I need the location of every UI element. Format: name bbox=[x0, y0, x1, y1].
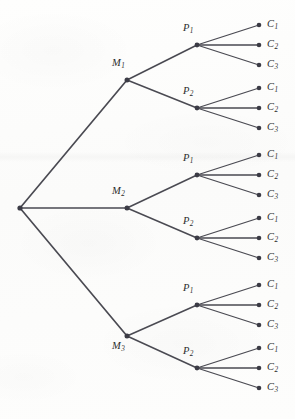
leaf-m2-p2-c1-label: C1 bbox=[267, 211, 278, 222]
leaf-m1-p2-c1-label: C1 bbox=[267, 81, 278, 92]
leaf-m2-p1-c1 bbox=[257, 153, 262, 158]
leaf-m1-p1-c3 bbox=[257, 63, 262, 68]
leaf-m1-p1-c1 bbox=[257, 23, 262, 28]
node-m2-label: M2 bbox=[112, 185, 125, 196]
node-m2-p2 bbox=[195, 236, 200, 241]
leaf-m2-p2-c1 bbox=[257, 216, 262, 221]
edge-node-m2-p2-to-leaf-m2-p2-c1 bbox=[197, 218, 259, 238]
node-m2-p1 bbox=[195, 173, 200, 178]
node-m3-p1-label: P1 bbox=[183, 282, 193, 293]
edge-node-m1-p1-to-leaf-m1-p1-c1 bbox=[197, 25, 259, 45]
leaf-m3-p2-c1-label: C1 bbox=[267, 341, 278, 352]
leaf-m1-p1-c2-label: C2 bbox=[267, 38, 278, 49]
leaf-m1-p2-c2 bbox=[257, 106, 262, 111]
edge-node-m2-p1-to-leaf-m2-p1-c3 bbox=[197, 175, 259, 195]
edge-node-m2-to-node-m2-p1 bbox=[127, 175, 197, 208]
edge-node-m3-p1-to-leaf-m3-p1-c1 bbox=[197, 285, 259, 305]
edge-node-m1-to-node-m1-p1 bbox=[127, 45, 197, 80]
node-m3-p2 bbox=[195, 366, 200, 371]
leaf-m3-p2-c3 bbox=[257, 386, 262, 391]
node-m2-p2-label: P2 bbox=[183, 215, 193, 226]
node-m1-label: M1 bbox=[112, 57, 125, 68]
edge-node-m3-p2-to-leaf-m3-p2-c1 bbox=[197, 348, 259, 368]
leaf-m1-p1-c2 bbox=[257, 43, 262, 48]
node-m3-p1 bbox=[195, 303, 200, 308]
leaf-m1-p2-c3-label: C3 bbox=[267, 121, 278, 132]
leaf-m2-p1-c3-label: C3 bbox=[267, 188, 278, 199]
root-node bbox=[17, 205, 22, 210]
node-m2 bbox=[125, 206, 130, 211]
edge-group bbox=[20, 25, 259, 388]
leaf-m3-p1-c1-label: C1 bbox=[267, 278, 278, 289]
node-m1-p2 bbox=[195, 106, 200, 111]
leaf-m3-p1-c2 bbox=[257, 303, 262, 308]
leaf-m2-p1-c2 bbox=[257, 173, 262, 178]
edge-node-m2-p1-to-leaf-m2-p1-c1 bbox=[197, 155, 259, 175]
edge-node-m3-p1-to-leaf-m3-p1-c3 bbox=[197, 305, 259, 325]
leaf-m1-p2-c2-label: C2 bbox=[267, 101, 278, 112]
edge-node-m2-p2-to-leaf-m2-p2-c3 bbox=[197, 238, 259, 258]
edge-node-m1-p2-to-leaf-m1-p2-c3 bbox=[197, 108, 259, 128]
edge-node-m1-p1-to-leaf-m1-p1-c3 bbox=[197, 45, 259, 65]
leaf-m3-p1-c1 bbox=[257, 283, 262, 288]
tree-diagram-page: M1M2M3P1P2P1P2P1P2C1C2C3C1C2C3C1C2C3C1C2… bbox=[0, 0, 295, 419]
edge-node-m3-to-node-m3-p1 bbox=[127, 305, 197, 336]
leaf-m2-p2-c3-label: C3 bbox=[267, 251, 278, 262]
edge-root-to-node-m1 bbox=[20, 80, 127, 208]
node-m1 bbox=[125, 78, 130, 83]
leaf-m2-p1-c2-label: C2 bbox=[267, 168, 278, 179]
edge-node-m1-p2-to-leaf-m1-p2-c1 bbox=[197, 88, 259, 108]
node-m2-p1-label: P1 bbox=[183, 152, 193, 163]
node-m1-p2-label: P2 bbox=[183, 85, 193, 96]
leaf-m1-p1-c1-label: C1 bbox=[267, 18, 278, 29]
tree-graph bbox=[0, 0, 295, 419]
leaf-m3-p2-c1 bbox=[257, 346, 262, 351]
leaf-m2-p2-c2 bbox=[257, 236, 262, 241]
edge-node-m3-p2-to-leaf-m3-p2-c3 bbox=[197, 368, 259, 388]
leaf-m2-p1-c3 bbox=[257, 193, 262, 198]
node-m3-label: M3 bbox=[112, 340, 125, 351]
leaf-m3-p2-c3-label: C3 bbox=[267, 381, 278, 392]
leaf-m2-p1-c1-label: C1 bbox=[267, 148, 278, 159]
leaf-m2-p2-c2-label: C2 bbox=[267, 231, 278, 242]
edge-root-to-node-m3 bbox=[20, 208, 127, 336]
node-m1-p1 bbox=[195, 43, 200, 48]
leaf-m2-p2-c3 bbox=[257, 256, 262, 261]
leaf-m3-p1-c3-label: C3 bbox=[267, 318, 278, 329]
node-m3-p2-label: P2 bbox=[183, 345, 193, 356]
leaf-m1-p2-c3 bbox=[257, 126, 262, 131]
leaf-m3-p2-c2 bbox=[257, 366, 262, 371]
node-m3 bbox=[125, 334, 130, 339]
leaf-m1-p1-c3-label: C3 bbox=[267, 58, 278, 69]
leaf-m3-p1-c3 bbox=[257, 323, 262, 328]
node-m1-p1-label: P1 bbox=[183, 22, 193, 33]
node-dot-group bbox=[17, 23, 261, 391]
leaf-m1-p2-c1 bbox=[257, 86, 262, 91]
leaf-m3-p2-c2-label: C2 bbox=[267, 361, 278, 372]
leaf-m3-p1-c2-label: C2 bbox=[267, 298, 278, 309]
